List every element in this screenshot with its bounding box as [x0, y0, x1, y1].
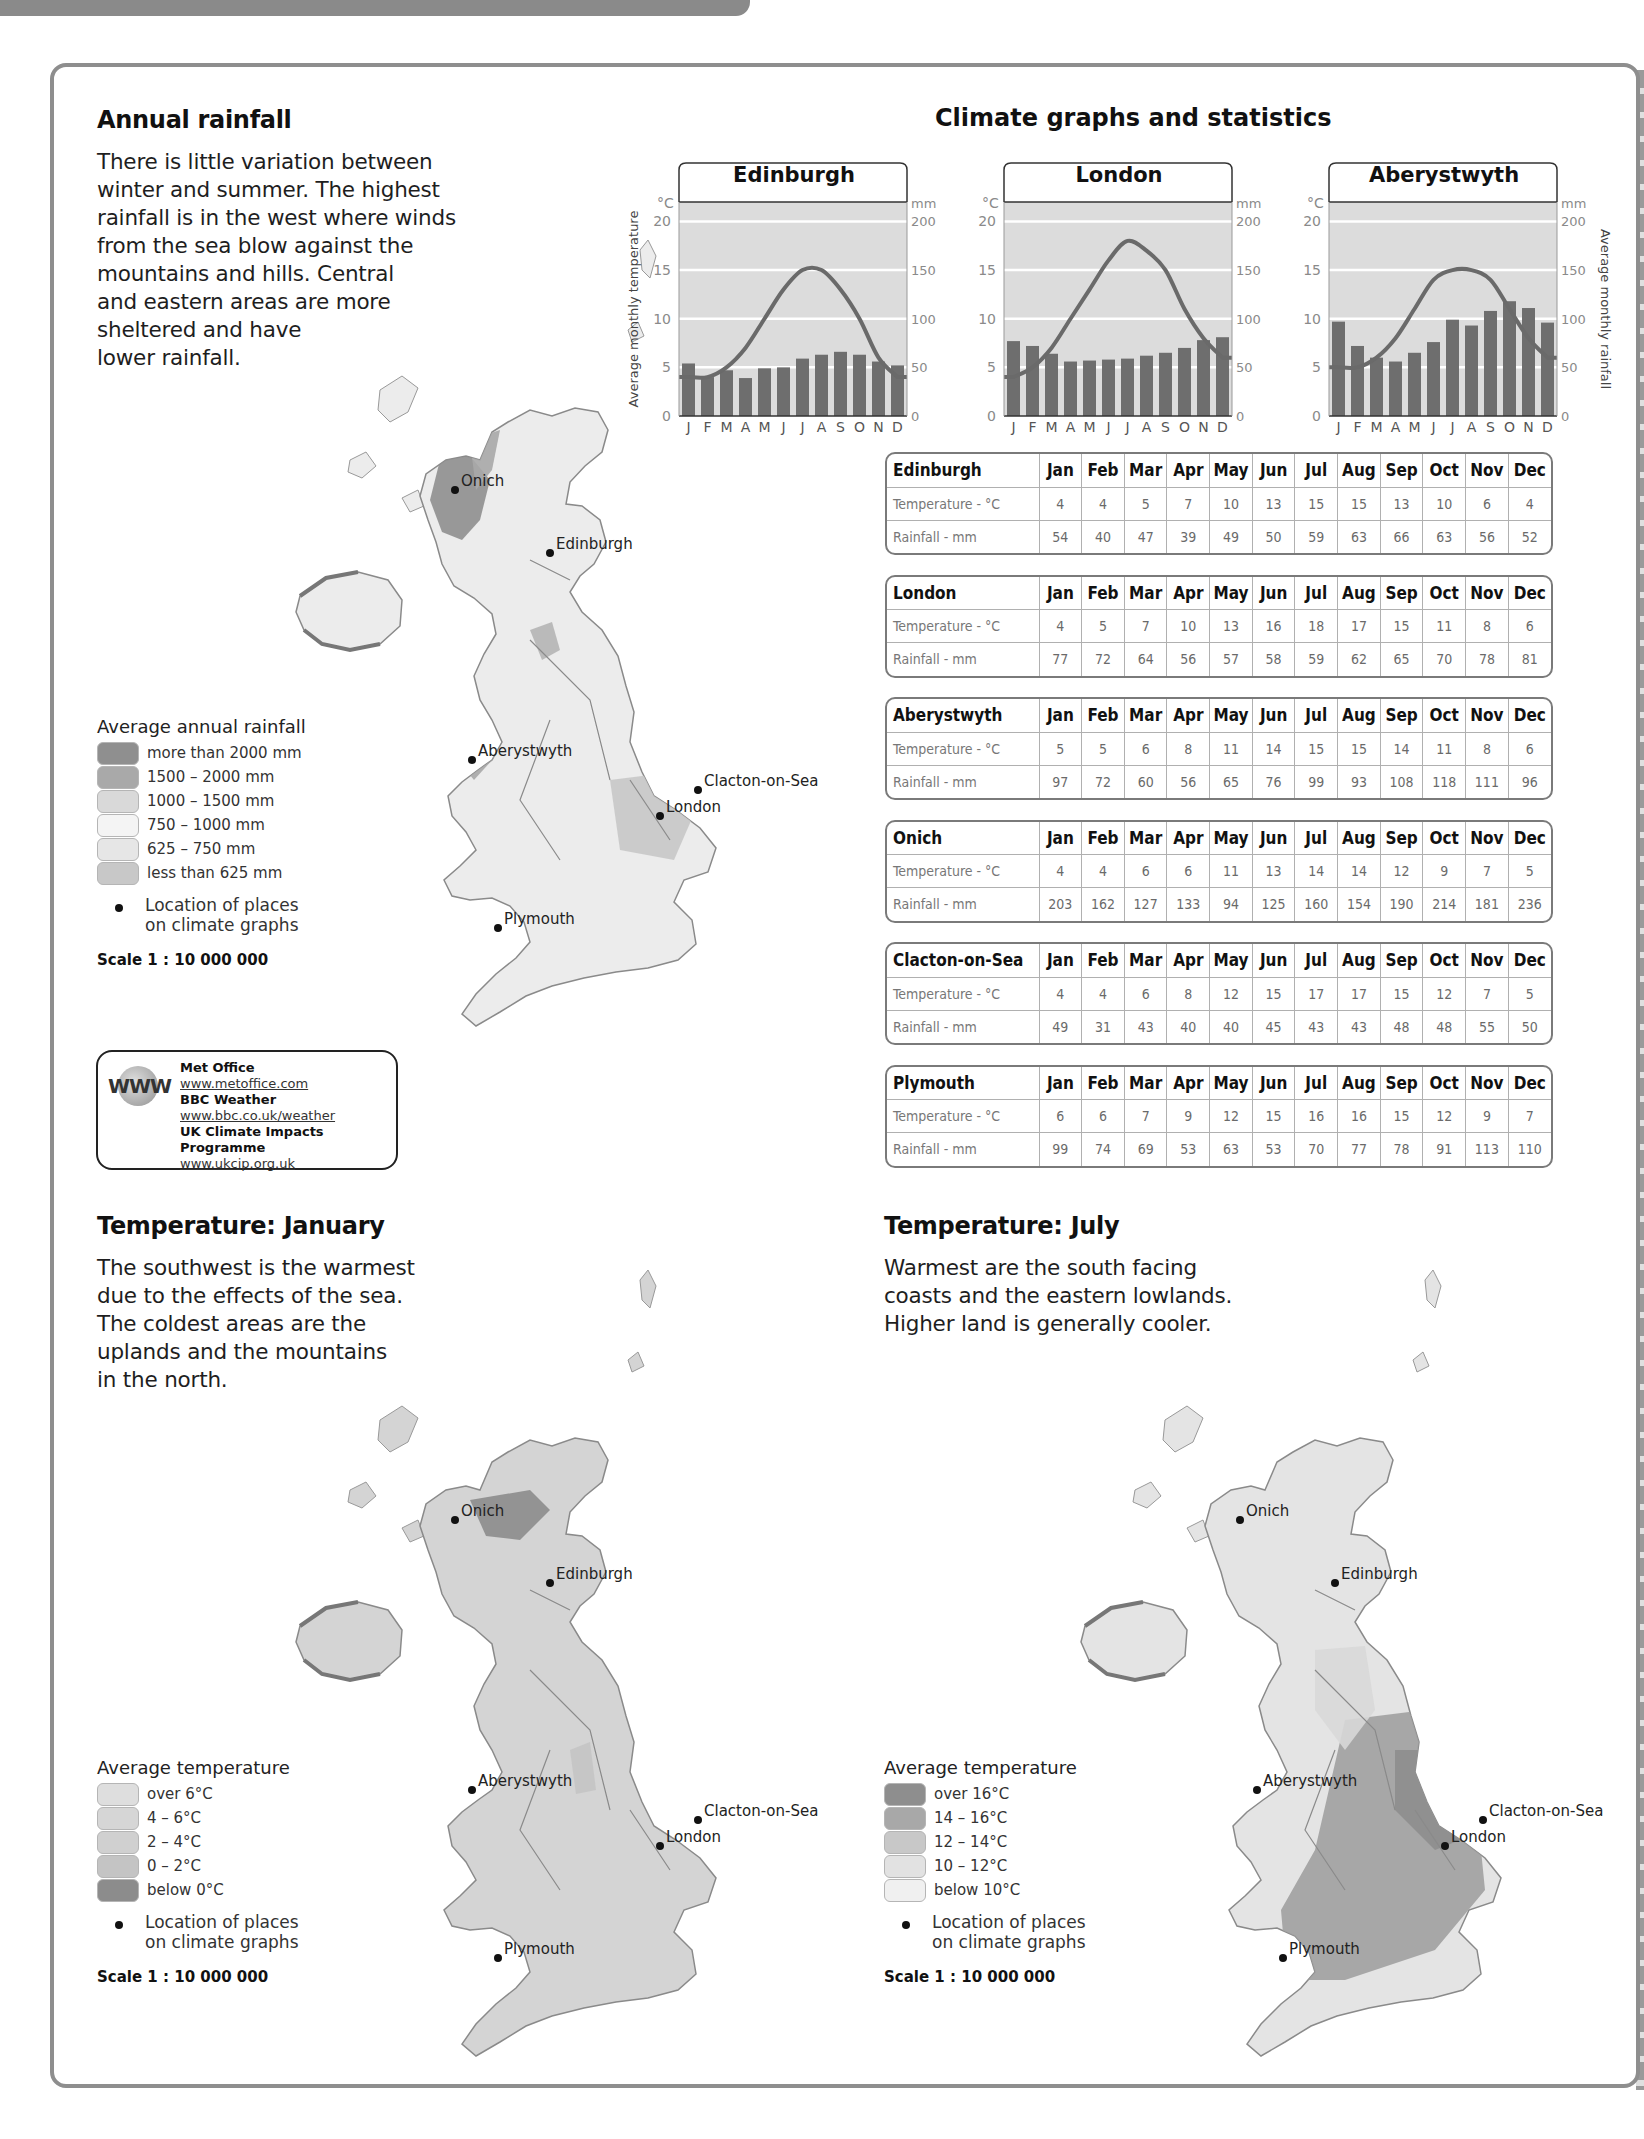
legend-item: 625 – 750 mm	[97, 837, 306, 861]
rainfall-bar	[1178, 348, 1191, 416]
table-row-rainfall: Rainfall - mm493143404045434348485550	[887, 1010, 1551, 1043]
svg-text:J: J	[1449, 419, 1454, 435]
table-cell: 8	[1167, 732, 1210, 765]
legend-item: 0 – 2°C	[97, 1854, 299, 1878]
table-month-header: Jul	[1295, 577, 1338, 610]
legend-swatch	[97, 1879, 139, 1902]
table-month-header: Sep	[1380, 577, 1423, 610]
map-scale: Scale 1 : 10 000 000	[97, 951, 306, 969]
legend-swatch	[884, 1783, 926, 1806]
svg-text:10: 10	[653, 311, 671, 327]
table-cell: 13	[1252, 487, 1295, 520]
table-cell: 10	[1167, 610, 1210, 643]
table-cell: 125	[1252, 888, 1295, 921]
table-cell: 94	[1210, 888, 1253, 921]
table-cell: 81	[1508, 643, 1551, 676]
legend-item: less than 625 mm	[97, 861, 306, 885]
table-cell: 54	[1039, 520, 1082, 553]
svg-text:London: London	[1451, 1828, 1506, 1846]
table-cell: 7	[1466, 977, 1509, 1010]
rainfall-bar	[1197, 340, 1210, 416]
table-cell: 50	[1508, 1010, 1551, 1043]
table-cell: 7	[1124, 610, 1167, 643]
table-cell: 12	[1210, 1100, 1253, 1133]
legend-swatch	[97, 1855, 139, 1878]
table-cell: 6	[1167, 855, 1210, 888]
svg-text:M: M	[720, 419, 732, 435]
svg-text:J: J	[1335, 419, 1340, 435]
table-month-header: Oct	[1423, 944, 1466, 977]
table-month-header: Nov	[1466, 1067, 1509, 1100]
rainfall-bar	[777, 367, 790, 416]
table-cell: 7	[1124, 1100, 1167, 1133]
rainfall-bar	[1064, 362, 1077, 416]
table-cell: 31	[1082, 1010, 1125, 1043]
svg-text:M: M	[1045, 419, 1057, 435]
legend-label: less than 625 mm	[147, 864, 282, 882]
legend-item: 750 – 1000 mm	[97, 813, 306, 837]
table-cell: 48	[1380, 1010, 1423, 1043]
table-month-header: Nov	[1466, 454, 1509, 487]
table-cell: 39	[1167, 520, 1210, 553]
svg-text:O: O	[1179, 419, 1190, 435]
table-month-header: Aug	[1338, 822, 1381, 855]
table-cell: 5	[1124, 487, 1167, 520]
svg-text:Edinburgh: Edinburgh	[1341, 1565, 1418, 1583]
table-month-header: Feb	[1082, 577, 1125, 610]
table-cell: 14	[1380, 732, 1423, 765]
table-row-rainfall: Rainfall - mm777264565758596265707881	[887, 643, 1551, 676]
svg-text:A: A	[1467, 419, 1477, 435]
svg-text:D: D	[1542, 419, 1553, 435]
table-cell: 55	[1466, 1010, 1509, 1043]
table-cell: 53	[1252, 1133, 1295, 1166]
table-place-name: Onich	[887, 822, 1039, 855]
table-month-header: Dec	[1508, 699, 1551, 732]
table-cell: 111	[1466, 765, 1509, 798]
table-place-name: Clacton-on-Sea	[887, 944, 1039, 977]
table-month-header: Oct	[1423, 822, 1466, 855]
rainfall-bar	[1541, 323, 1554, 416]
legend-swatch	[97, 862, 139, 885]
table-month-header: Jan	[1039, 822, 1082, 855]
table-month-header: Mar	[1124, 1067, 1167, 1100]
table-place-name: London	[887, 577, 1039, 610]
table-cell: 162	[1082, 888, 1125, 921]
table-cell: 6	[1039, 1100, 1082, 1133]
table-cell: 15	[1380, 977, 1423, 1010]
table-cell: 15	[1252, 977, 1295, 1010]
svg-text:20: 20	[653, 213, 671, 229]
svg-text:A: A	[1066, 419, 1076, 435]
table-cell: 7	[1167, 487, 1210, 520]
svg-text:O: O	[1504, 419, 1515, 435]
table-row-temperature: Temperature - °C556811141515141186	[887, 732, 1551, 765]
table-cell: 60	[1124, 765, 1167, 798]
svg-text:0: 0	[662, 408, 671, 424]
table-cell: 15	[1338, 732, 1381, 765]
svg-text:N: N	[1198, 419, 1208, 435]
table-cell: 16	[1295, 1100, 1338, 1133]
table-cell: 14	[1252, 732, 1295, 765]
svg-text:J: J	[685, 419, 690, 435]
table-cell: 63	[1210, 1133, 1253, 1166]
legend-label: 12 – 14°C	[934, 1833, 1007, 1851]
web-link-bbc[interactable]: BBC Weather www.bbc.co.uk/weather	[180, 1092, 386, 1124]
svg-text:°C: °C	[982, 195, 999, 211]
legend-location-key: Location of places on climate graphs	[97, 895, 306, 935]
table-cell: 58	[1252, 643, 1295, 676]
place-marker-clacton-on-sea: Clacton-on-Sea	[694, 1802, 818, 1824]
table-cell: 6	[1466, 487, 1509, 520]
web-link-metoffice[interactable]: Met Office www.metoffice.com	[180, 1060, 386, 1092]
table-cell: 99	[1039, 1133, 1082, 1166]
table-month-header: May	[1210, 577, 1253, 610]
svg-text:Clacton-on-Sea: Clacton-on-Sea	[1489, 1802, 1603, 1820]
table-month-header: Oct	[1423, 699, 1466, 732]
chart-title: Aberystwyth	[1329, 163, 1559, 193]
legend-swatch	[884, 1855, 926, 1878]
table-row-temperature: Temperature - °C446812151717151275	[887, 977, 1551, 1010]
table-cell: 13	[1210, 610, 1253, 643]
table-month-header: Mar	[1124, 454, 1167, 487]
svg-text:200: 200	[1236, 214, 1261, 229]
web-link-ukcip[interactable]: UK Climate Impacts Programme www.ukcip.o…	[180, 1124, 386, 1172]
climate-table-london: LondonJanFebMarAprMayJunJulAugSepOctNovD…	[885, 575, 1553, 678]
table-cell: 5	[1082, 610, 1125, 643]
